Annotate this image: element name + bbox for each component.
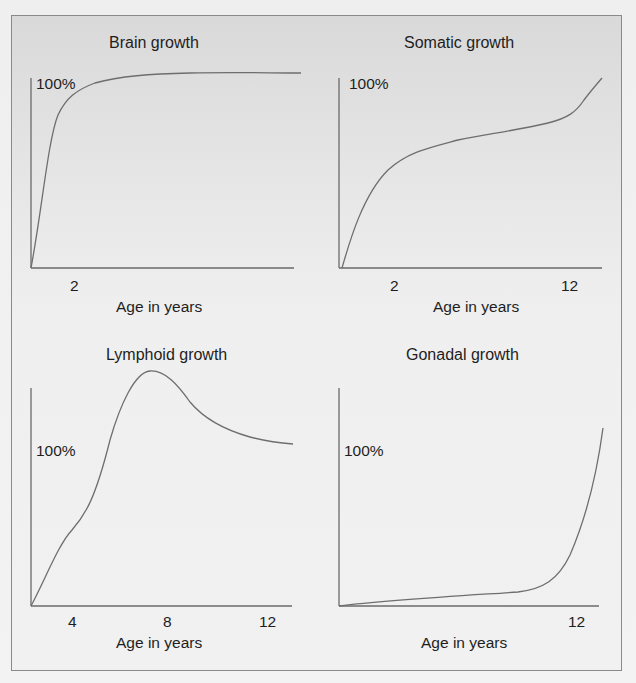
x-tick-4: 4 [68,613,77,631]
x-axis-label: Age in years [421,634,507,652]
x-tick-8: 8 [163,613,172,631]
y-label-100: 100% [349,75,389,93]
brain-growth-curve [31,73,301,268]
x-tick-12: 12 [568,613,585,631]
x-axis-label: Age in years [433,298,519,316]
somatic-growth-curve [342,78,602,268]
y-label-100: 100% [36,442,76,460]
y-label-100: 100% [36,75,76,93]
brain-growth-plot [0,0,318,330]
x-tick-12: 12 [259,613,276,631]
lymphoid-growth-curve [31,371,293,606]
panel-gonadal-growth: Gonadal growth 100% 12 Age in years [318,330,636,683]
somatic-growth-plot [318,0,636,330]
x-tick-2: 2 [390,277,399,295]
x-tick-12: 12 [561,277,578,295]
x-axis-label: Age in years [116,634,202,652]
panel-lymphoid-growth: Lymphoid growth 100% 4 8 12 Age in years [0,330,318,683]
x-tick-2: 2 [70,277,79,295]
panel-brain-growth: Brain growth 100% 2 Age in years [0,0,318,330]
gonadal-growth-plot [318,330,636,683]
x-axis-label: Age in years [116,298,202,316]
panel-somatic-growth: Somatic growth 100% 2 12 Age in years [318,0,636,330]
y-label-100: 100% [344,442,384,460]
